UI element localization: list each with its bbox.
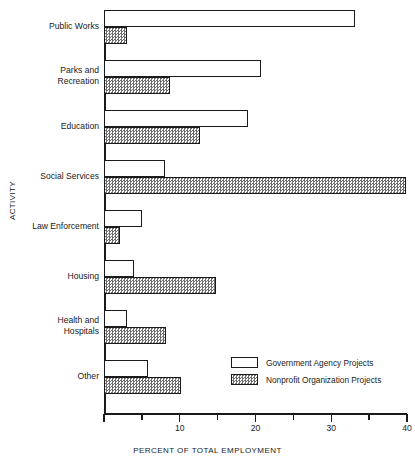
legend-label: Nonprofit Organization Projects	[266, 375, 381, 385]
bar-government-6	[104, 310, 127, 327]
category-label: Parks and Recreation	[3, 65, 99, 87]
x-tick-label-10: 10	[165, 423, 195, 433]
x-tick-label-40: 40	[392, 423, 415, 433]
category-label: Health and Hospitals	[3, 315, 99, 337]
bar-nonprofit-1	[104, 77, 170, 94]
bar-nonprofit-0	[104, 27, 127, 44]
legend-item-0: Government Agency Projects	[231, 355, 381, 370]
chart-legend: Government Agency ProjectsNonprofit Orga…	[231, 355, 381, 389]
category-label: Public Works	[3, 21, 99, 32]
x-tick-label-20: 20	[241, 423, 271, 433]
x-tick-major-30	[331, 414, 332, 422]
legend-swatch-nonprofit	[231, 374, 258, 385]
legend-swatch-government	[231, 357, 258, 368]
bar-government-5	[104, 260, 134, 277]
bar-government-7	[104, 360, 148, 377]
x-tick-minor-35	[368, 414, 369, 420]
x-tick-major-20	[255, 414, 256, 422]
category-label: Social Services	[3, 171, 99, 182]
x-tick-major-10	[179, 414, 180, 422]
bar-nonprofit-7	[104, 377, 181, 394]
bar-nonprofit-6	[104, 327, 166, 344]
category-label: Housing	[3, 271, 99, 282]
x-tick-minor-25	[293, 414, 294, 420]
bar-nonprofit-3	[104, 177, 406, 194]
bar-government-1	[104, 60, 261, 77]
bar-nonprofit-2	[104, 127, 200, 144]
bar-nonprofit-4	[104, 227, 120, 244]
category-label: Education	[3, 121, 99, 132]
bar-nonprofit-5	[104, 277, 216, 294]
plot-area: 10203040	[104, 8, 407, 414]
x-tick-major-0	[103, 414, 104, 422]
x-tick-minor-15	[217, 414, 218, 420]
x-axis-title: PERCENT OF TOTAL EMPLOYMENT	[0, 446, 415, 455]
x-tick-major-40	[406, 414, 407, 422]
bar-government-2	[104, 110, 248, 127]
bar-chart: ACTIVITY Public WorksParks and Recreatio…	[0, 0, 415, 466]
x-tick-minor-5	[141, 414, 142, 420]
x-tick-label-30: 30	[316, 423, 346, 433]
bar-government-3	[104, 160, 165, 177]
bar-government-4	[104, 210, 142, 227]
category-label-column: Public WorksParks and RecreationEducatio…	[0, 0, 99, 466]
category-label: Other	[3, 371, 99, 382]
category-label: Law Enforcement	[3, 221, 99, 232]
bar-government-0	[104, 10, 355, 27]
legend-item-1: Nonprofit Organization Projects	[231, 372, 381, 387]
legend-label: Government Agency Projects	[266, 358, 373, 368]
